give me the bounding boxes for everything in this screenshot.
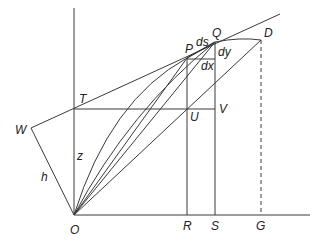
label-z: z: [76, 149, 83, 163]
label-dx: dx: [201, 59, 215, 73]
label-w: W: [15, 123, 28, 137]
label-q: Q: [212, 26, 221, 40]
curve-qd: [215, 39, 261, 42]
label-ds: ds: [196, 35, 209, 49]
label-v: V: [219, 102, 228, 116]
label-r: R: [183, 219, 192, 233]
line-op: [74, 58, 187, 215]
label-g: G: [256, 219, 265, 233]
label-s: S: [211, 219, 219, 233]
line-od: [74, 40, 261, 215]
label-d: D: [264, 26, 273, 40]
label-u: U: [190, 110, 199, 124]
label-h: h: [41, 170, 48, 184]
line-oq: [74, 42, 215, 215]
segment-wo: [31, 128, 74, 215]
label-p: P: [185, 42, 193, 56]
label-dy: dy: [218, 45, 232, 59]
label-o: O: [70, 223, 79, 237]
label-t: T: [79, 92, 88, 106]
tangent-line: [31, 14, 280, 128]
diagram-canvas: O T W P Q D U V R S G ds dy dx z h: [0, 0, 324, 242]
